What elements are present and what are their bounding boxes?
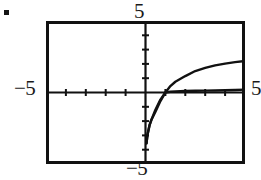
plot-canvas — [46, 21, 245, 164]
axis-label-ymax: 5 — [134, 1, 144, 22]
graph-figure: 5 −5 −5 5 — [0, 0, 261, 180]
plot-viewport — [46, 21, 245, 164]
axis-label-xmax: 5 — [251, 78, 261, 99]
axis-label-xmin: −5 — [14, 78, 35, 99]
square-bullet-icon — [4, 10, 9, 15]
